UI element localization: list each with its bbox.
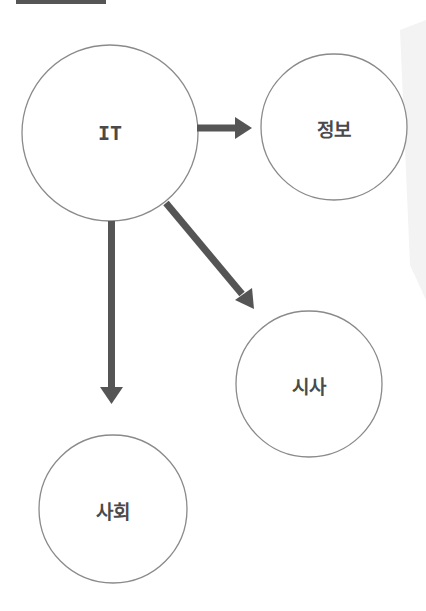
node-info-label: 정보 (317, 115, 351, 142)
concept-diagram (0, 0, 426, 611)
arrow-down-right-icon (166, 203, 254, 309)
node-it-label: IT (98, 121, 122, 145)
node-current-affairs-label: 시사 (292, 372, 326, 399)
arrow-right-icon (197, 117, 252, 139)
node-society-label: 사회 (96, 497, 130, 524)
arrow-down-icon (100, 221, 123, 404)
